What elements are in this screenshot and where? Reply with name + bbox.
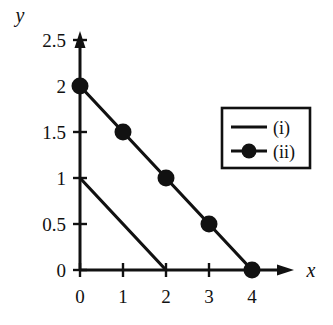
y-tick-label-1-5: 1.5 <box>42 122 66 143</box>
x-axis-arrowhead <box>277 265 294 276</box>
y-tick-label-1: 1 <box>57 168 67 189</box>
data-point-2-1 <box>158 170 175 187</box>
x-axis-label: x <box>306 259 316 281</box>
y-axis-label: y <box>14 4 25 27</box>
y-tick-labels: 2.5 2 1.5 1 0.5 0 <box>42 30 66 281</box>
data-point-4-0 <box>244 262 261 279</box>
series-i-line <box>80 178 166 270</box>
data-point-1-1-5 <box>115 124 132 141</box>
y-tick-label-0-5: 0.5 <box>42 214 66 235</box>
x-tick-label-3: 3 <box>204 286 214 307</box>
legend-label-i: (i) <box>273 118 290 139</box>
data-point-3-0-5 <box>201 216 218 233</box>
data-point-0-2 <box>72 78 89 95</box>
y-tick-label-2: 2 <box>57 76 67 97</box>
legend: (i) (ii) <box>222 108 310 168</box>
x-tick-label-4: 4 <box>247 286 257 307</box>
x-tick-labels: 0 1 2 3 4 <box>75 286 257 307</box>
line-chart: 2.5 2 1.5 1 0.5 0 0 1 2 3 4 y x <box>0 0 333 325</box>
legend-label-ii: (ii) <box>273 142 295 163</box>
x-tick-label-2: 2 <box>161 286 171 307</box>
legend-swatch-marker-ii <box>242 144 257 159</box>
chart-figure: 2.5 2 1.5 1 0.5 0 0 1 2 3 4 y x <box>0 0 333 325</box>
x-tick-label-0: 0 <box>75 286 85 307</box>
y-tick-label-2-5: 2.5 <box>42 30 66 51</box>
y-tick-label-0: 0 <box>57 260 67 281</box>
legend-box <box>222 108 310 168</box>
x-tick-label-1: 1 <box>118 286 128 307</box>
